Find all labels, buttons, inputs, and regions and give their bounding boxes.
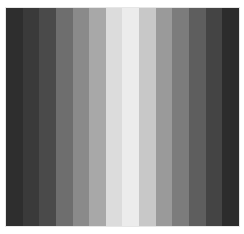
stripe-2: [39, 8, 56, 226]
stripe-13: [222, 8, 239, 226]
stripe-0: [6, 8, 23, 226]
stripe-1: [23, 8, 40, 226]
stripe-4: [73, 8, 90, 226]
stripe-11: [189, 8, 206, 226]
stripe-12: [206, 8, 223, 226]
stripe-5: [89, 8, 106, 226]
stripe-6: [106, 8, 123, 226]
stripe-10: [172, 8, 189, 226]
stripe-3: [56, 8, 73, 226]
stripe-7: [122, 8, 139, 226]
stripe-8: [139, 8, 156, 226]
stripe-pattern: [6, 8, 239, 226]
stripe-9: [156, 8, 173, 226]
